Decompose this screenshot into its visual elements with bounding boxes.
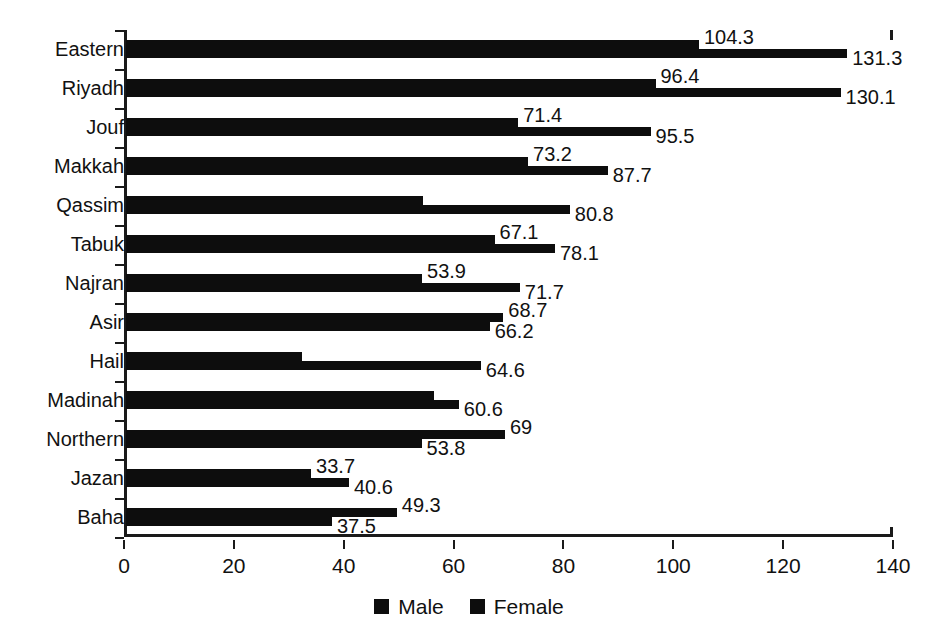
bar-female [126,478,349,487]
y-axis-tick [115,459,124,461]
axis-frame-cap-top-left [124,30,127,40]
bar-female [126,127,651,136]
legend-label: Female [494,596,564,617]
y-axis-category-label: Jazan [14,468,124,488]
y-axis-tick [115,498,124,500]
legend-label: Male [398,596,444,617]
y-axis-category-label: Najran [14,273,124,293]
x-axis-tick [233,540,235,549]
y-axis-tick [115,108,124,110]
y-axis-category-label: Madinah [14,390,124,410]
bar-female [126,400,459,409]
bar-value-label: 49.3 [402,495,441,515]
bar-male [126,235,495,244]
bar-value-label: 95.5 [656,126,695,146]
bar-male [126,118,518,127]
x-axis-tick-label: 40 [332,555,355,576]
y-axis-category-labels: EasternRiyadhJoufMakkahQassimTabukNajran… [0,0,124,638]
y-axis-tick [115,537,124,539]
legend-swatch-icon [374,599,389,614]
legend-swatch-icon [470,599,485,614]
x-axis-tick-label: 80 [552,555,575,576]
bar-male [126,274,422,283]
y-axis-category-label: Makkah [14,156,124,176]
bar-female [126,205,570,214]
bar-chart: EasternRiyadhJoufMakkahQassimTabukNajran… [0,0,938,638]
bar-value-label: 67.1 [500,222,539,242]
y-axis-tick [115,186,124,188]
axis-frame-cap-bottom-right [890,527,893,537]
bar-female [126,439,422,448]
bar-female [126,166,608,175]
bar-value-label: 60.6 [464,399,503,419]
bar-male [126,391,434,400]
y-axis-tick [115,342,124,344]
x-axis-tick-label: 0 [118,555,130,576]
bar-value-label: 78.1 [560,243,599,263]
x-axis-tick [453,540,455,549]
x-axis-tick [782,540,784,549]
bar-value-label: 96.4 [661,66,700,86]
bar-value-label: 131.3 [852,48,902,68]
axis-frame-cap-top-right [890,30,893,40]
bar-female [126,49,847,58]
y-axis-category-label: Hail [14,351,124,371]
y-axis-category-label: Qassim [14,195,124,215]
y-axis-category-label: Asir [14,312,124,332]
x-axis-tick-label: 120 [766,555,801,576]
x-axis-tick [562,540,564,549]
bar-value-label: 73.2 [533,144,572,164]
y-axis-category-label: Baha [14,507,124,527]
y-axis-tick [115,420,124,422]
y-axis-category-label: Tabuk [14,234,124,254]
legend-item-male[interactable]: Male [374,596,444,617]
y-axis-tick [115,303,124,305]
y-axis-tick [115,30,124,32]
bar-male [126,469,311,478]
y-axis-tick [115,264,124,266]
y-axis-tick [115,69,124,71]
bar-value-label: 64.6 [486,360,525,380]
bar-value-label: 68.7 [508,300,547,320]
bar-value-label: 130.1 [846,87,896,107]
bar-male [126,79,656,88]
bar-value-label: 87.7 [613,165,652,185]
bar-female [126,322,490,331]
bar-value-label: 80.8 [575,204,614,224]
bar-female [126,88,841,97]
bar-male [126,352,302,361]
y-axis-category-label: Riyadh [14,78,124,98]
x-axis-tick-label: 100 [656,555,691,576]
x-axis-tick [343,540,345,549]
chart-legend: MaleFemale [0,596,938,617]
bar-value-label: 71.4 [523,105,562,125]
x-axis-tick [123,540,125,549]
y-axis-tick [115,381,124,383]
legend-item-female[interactable]: Female [470,596,564,617]
bar-value-label: 33.7 [316,456,355,476]
bar-value-label: 37.5 [337,516,376,536]
y-axis-category-label: Northern [14,429,124,449]
x-axis-tick [672,540,674,549]
bar-value-label: 53.9 [427,261,466,281]
bar-female [126,244,555,253]
y-axis-tick [115,147,124,149]
bar-male [126,40,699,49]
x-axis-tick [892,540,894,549]
x-axis-tick-label: 140 [875,555,910,576]
bar-female [126,361,481,370]
bar-value-label: 40.6 [354,477,393,497]
bar-value-label: 104.3 [704,27,754,47]
y-axis-category-label: Jouf [14,117,124,137]
bar-male [126,313,503,322]
bar-female [126,283,520,292]
bar-value-label: 53.8 [427,438,466,458]
bar-male [126,157,528,166]
x-axis-tick-label: 60 [442,555,465,576]
y-axis-category-label: Eastern [14,39,124,59]
bar-value-label: 69 [510,417,532,437]
y-axis-tick [115,225,124,227]
bar-value-label: 66.2 [495,321,534,341]
x-axis-tick-label: 20 [222,555,245,576]
bar-male [126,196,423,205]
